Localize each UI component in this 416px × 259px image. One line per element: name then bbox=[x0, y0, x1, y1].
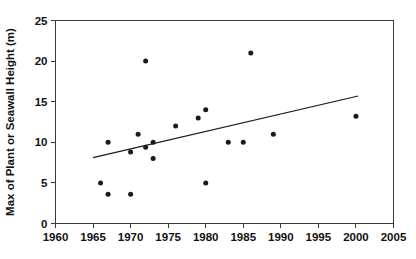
x-tick-label-1975: 1975 bbox=[155, 231, 181, 243]
trend-line bbox=[93, 96, 358, 158]
data-point bbox=[143, 59, 148, 64]
y-axis-ticks bbox=[51, 21, 56, 224]
y-tick-label-20: 20 bbox=[35, 55, 48, 67]
data-point bbox=[353, 114, 358, 119]
data-point bbox=[98, 180, 103, 185]
y-tick-label-0: 0 bbox=[41, 218, 47, 230]
x-axis-tick-labels: 1960196519701975198019851990199520002005 bbox=[43, 231, 407, 243]
y-tick-label-10: 10 bbox=[35, 136, 48, 148]
x-tick-label-1970: 1970 bbox=[118, 231, 144, 243]
data-point bbox=[143, 145, 148, 150]
data-point bbox=[128, 192, 133, 197]
y-tick-label-15: 15 bbox=[35, 96, 48, 108]
data-point bbox=[128, 150, 133, 155]
y-axis-tick-labels: 0510152025 bbox=[35, 15, 48, 230]
x-tick-label-1990: 1990 bbox=[268, 231, 294, 243]
data-point bbox=[106, 140, 111, 145]
x-tick-label-1960: 1960 bbox=[43, 231, 69, 243]
linear-trend-line bbox=[93, 96, 358, 158]
x-tick-label-2000: 2000 bbox=[343, 231, 369, 243]
y-tick-label-5: 5 bbox=[41, 177, 48, 189]
data-points bbox=[98, 50, 358, 196]
y-axis-title: Max of Plant or Seawall Height (m) bbox=[4, 28, 16, 216]
data-point bbox=[151, 140, 156, 145]
x-tick-label-2005: 2005 bbox=[381, 231, 407, 243]
data-point bbox=[151, 156, 156, 161]
data-point bbox=[226, 140, 231, 145]
data-point bbox=[241, 140, 246, 145]
x-tick-label-1980: 1980 bbox=[193, 231, 219, 243]
scatter-chart: 1960196519701975198019851990199520002005… bbox=[0, 0, 416, 259]
data-point bbox=[248, 50, 253, 55]
data-point bbox=[271, 132, 276, 137]
data-point bbox=[136, 132, 141, 137]
data-point bbox=[173, 124, 178, 129]
x-tick-label-1985: 1985 bbox=[230, 231, 256, 243]
x-tick-label-1995: 1995 bbox=[306, 231, 332, 243]
x-axis-ticks bbox=[56, 224, 394, 229]
data-point bbox=[106, 192, 111, 197]
data-point bbox=[203, 107, 208, 112]
chart-canvas: 1960196519701975198019851990199520002005… bbox=[0, 0, 416, 259]
x-tick-label-1965: 1965 bbox=[80, 231, 106, 243]
data-point bbox=[203, 180, 208, 185]
y-axis-title-text: Max of Plant or Seawall Height (m) bbox=[4, 28, 16, 216]
y-tick-label-25: 25 bbox=[35, 15, 48, 27]
data-point bbox=[196, 115, 201, 120]
